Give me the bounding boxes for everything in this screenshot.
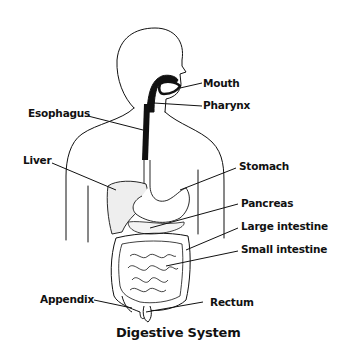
leader-small-intestine: [166, 251, 238, 266]
leader-pharynx: [154, 103, 202, 106]
rectum-shape: [143, 306, 151, 322]
leader-liver: [52, 163, 116, 190]
diagram-title: Digestive System: [116, 325, 241, 340]
pancreas-shape: [128, 222, 184, 234]
label-pancreas: Pancreas: [241, 197, 293, 209]
label-mouth: Mouth: [203, 77, 240, 89]
leader-mouth: [180, 83, 202, 88]
esophagus-lower: [144, 160, 150, 185]
label-pharynx: Pharynx: [203, 99, 250, 111]
mouth-pharynx: [147, 75, 180, 112]
label-stomach: Stomach: [239, 160, 289, 172]
label-large-intestine: Large intestine: [241, 220, 328, 232]
leader-large-intestine: [186, 228, 238, 250]
leader-esophagus: [88, 116, 143, 130]
digestive-system-diagram: Mouth Pharynx Esophagus Liver Stomach Pa…: [0, 0, 345, 349]
label-small-intestine: Small intestine: [241, 243, 327, 255]
leader-appendix: [94, 300, 132, 308]
leader-stomach: [180, 168, 236, 190]
leader-rectum: [146, 302, 203, 312]
label-appendix: Appendix: [40, 293, 94, 305]
label-esophagus: Esophagus: [28, 107, 90, 119]
small-intestine-coils: [128, 254, 178, 291]
label-liver: Liver: [23, 154, 51, 166]
esophagus-tube: [145, 104, 147, 160]
label-rectum: Rectum: [210, 296, 254, 308]
